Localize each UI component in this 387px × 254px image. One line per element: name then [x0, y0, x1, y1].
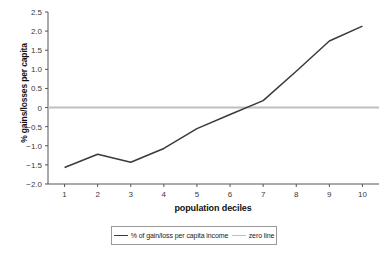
y-tick-label: −1.0: [26, 142, 42, 151]
x-tick-label: 6: [228, 190, 233, 199]
x-tick-label: 3: [129, 190, 134, 199]
y-tick-label: −0.5: [26, 123, 42, 132]
y-axis-ticks: 2.52.01.51.00.50−0.5−1.0−1.5−2.0: [26, 8, 48, 189]
chart-legend: % of gain/loss per capita income zero li…: [111, 226, 277, 245]
legend-swatch-zero-line: [232, 235, 246, 236]
y-tick-label: −2.0: [26, 180, 42, 189]
y-tick-label: 1.0: [31, 65, 43, 74]
legend-swatch-gain-loss: [114, 235, 128, 236]
x-tick-label: 5: [195, 190, 200, 199]
plot-area: 2.52.01.51.00.50−0.5−1.0−1.5−2.0 1234567…: [0, 0, 387, 254]
x-tick-label: 10: [358, 190, 367, 199]
y-tick-label: −1.5: [26, 161, 42, 170]
x-tick-label: 8: [294, 190, 299, 199]
legend-item-gain-loss: % of gain/loss per capita income: [114, 232, 229, 239]
x-tick-label: 2: [95, 190, 100, 199]
y-tick-label: 0: [38, 104, 43, 113]
chart-figure: % gains/losses per capita population dec…: [0, 0, 387, 254]
x-tick-label: 9: [327, 190, 332, 199]
x-axis-ticks: 12345678910: [62, 184, 367, 199]
y-tick-label: 0.5: [31, 84, 43, 93]
y-tick-label: 2.5: [31, 8, 43, 17]
x-tick-label: 4: [162, 190, 167, 199]
x-tick-label: 7: [261, 190, 266, 199]
y-tick-label: 1.5: [31, 46, 43, 55]
legend-label-zero-line: zero line: [249, 232, 275, 239]
y-tick-label: 2.0: [31, 27, 43, 36]
x-tick-label: 1: [62, 190, 67, 199]
gain-loss-series: [65, 26, 363, 167]
legend-item-zero-line: zero line: [232, 232, 275, 239]
legend-label-gain-loss: % of gain/loss per capita income: [131, 232, 229, 239]
